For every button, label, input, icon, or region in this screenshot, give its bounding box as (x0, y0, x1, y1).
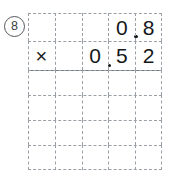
grid-cell[interactable] (108, 70, 135, 95)
cell-value: 8 (143, 16, 155, 37)
grid-cell[interactable] (135, 120, 162, 145)
grid-cell[interactable] (55, 41, 82, 70)
grid-row-multiplicand: 0 8 (28, 13, 162, 41)
grid-cell[interactable] (28, 145, 55, 170)
grid-cell[interactable] (135, 70, 162, 95)
grid-cell[interactable] (55, 145, 82, 170)
grid-cell[interactable] (82, 13, 109, 41)
grid-row-answer (28, 145, 162, 170)
grid-cell[interactable]: 5 (108, 41, 135, 70)
calculation-grid: 0 8 × 0 5 2 (28, 13, 162, 170)
grid-cell[interactable] (55, 13, 82, 41)
grid-cell[interactable] (28, 13, 55, 41)
grid-cell[interactable] (108, 145, 135, 170)
grid-cell[interactable] (135, 145, 162, 170)
grid-cell[interactable] (55, 95, 82, 120)
grid-cell[interactable] (28, 70, 55, 95)
cell-value: 5 (116, 45, 128, 66)
grid-cell[interactable]: 0 (82, 41, 109, 70)
grid-cell[interactable] (55, 120, 82, 145)
multiplication-operator: × (36, 45, 48, 65)
worksheet-problem: 8 0 8 × 0 5 2 (0, 0, 171, 178)
cell-value: 0 (89, 45, 101, 66)
grid-cell[interactable]: 2 (135, 41, 162, 70)
grid-row-work-1 (28, 70, 162, 95)
grid-row-work-3 (28, 120, 162, 145)
grid-row-work-2 (28, 95, 162, 120)
grid-cell[interactable] (55, 70, 82, 95)
grid-cell[interactable] (82, 145, 109, 170)
grid-cell[interactable] (82, 70, 109, 95)
grid-row-multiplier: × 0 5 2 (28, 41, 162, 70)
problem-number-label: 8 (11, 20, 18, 33)
grid-cell[interactable]: 8 (135, 13, 162, 41)
grid-cell[interactable] (108, 95, 135, 120)
grid-cell-operator[interactable]: × (28, 41, 55, 70)
grid-cell[interactable] (28, 95, 55, 120)
problem-number-badge: 8 (4, 16, 25, 37)
grid-cell[interactable] (108, 120, 135, 145)
grid-cell[interactable] (82, 120, 109, 145)
grid-cell[interactable] (135, 95, 162, 120)
grid-cell[interactable] (82, 95, 109, 120)
grid-cell[interactable] (28, 120, 55, 145)
grid-cell[interactable]: 0 (108, 13, 135, 41)
cell-value: 0 (116, 16, 128, 37)
cell-value: 2 (143, 45, 155, 66)
